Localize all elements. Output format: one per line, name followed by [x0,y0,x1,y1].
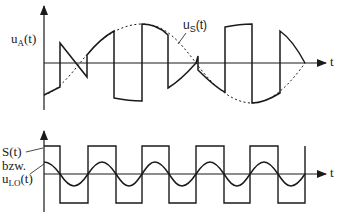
bottom-t-axis-label: t [330,166,334,179]
bottom-s-label: S(t) [2,145,22,158]
us-label-leader [178,33,186,44]
bottom-panel [26,131,326,212]
diagram-canvas [0,0,344,219]
s-label-leader [26,148,43,152]
top-t-axis-label: t [330,55,334,68]
top-y-axis-label: uA(t) [11,32,36,48]
us-label: uS(t) [183,19,207,34]
bottom-ulo-label: uLO(t) [2,172,33,188]
